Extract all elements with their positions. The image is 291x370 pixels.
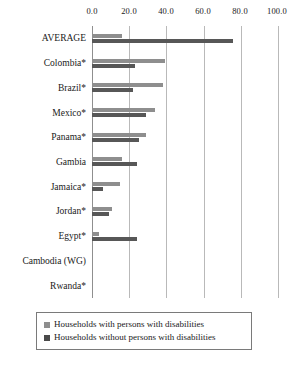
category-label: Cambodia (WG) xyxy=(22,256,86,266)
category-label: Egypt* xyxy=(59,231,86,241)
bar-group xyxy=(92,224,278,249)
legend-label: Households with persons with disabilitie… xyxy=(54,318,204,331)
bar-without-disabilities xyxy=(92,138,139,142)
bar-group xyxy=(92,273,278,298)
bar-rows xyxy=(92,26,278,298)
chart-legend: Households with persons with disabilitie… xyxy=(36,312,252,350)
bar-without-disabilities xyxy=(92,64,135,68)
y-axis-category-labels: AVERAGEColombia*Brazil*Mexico*Panama*Gam… xyxy=(0,26,90,298)
bar-group xyxy=(92,174,278,199)
bar-with-disabilities xyxy=(92,232,99,236)
legend-swatch-icon xyxy=(44,322,50,328)
bar-with-disabilities xyxy=(92,133,146,137)
bar-group xyxy=(92,26,278,51)
legend-item: Households without persons with disabili… xyxy=(44,331,245,344)
bar-with-disabilities xyxy=(92,207,112,211)
bar-group xyxy=(92,199,278,224)
bar-without-disabilities xyxy=(92,187,103,191)
category-label: Panama* xyxy=(51,132,86,142)
bar-with-disabilities xyxy=(92,83,163,87)
x-tick-0: 0.0 xyxy=(75,6,109,16)
bar-with-disabilities xyxy=(92,59,165,63)
category-label: Mexico* xyxy=(52,108,86,118)
category-label: Colombia* xyxy=(44,58,86,68)
bar-without-disabilities xyxy=(92,88,133,92)
plot-area xyxy=(92,26,278,298)
x-tick-5: 100.0 xyxy=(260,6,291,16)
bar-group xyxy=(92,150,278,175)
bar-without-disabilities xyxy=(92,39,233,43)
bar-without-disabilities xyxy=(92,113,146,117)
category-label: Gambia xyxy=(56,157,86,167)
bar-without-disabilities xyxy=(92,162,137,166)
category-label: Rwanda* xyxy=(50,281,86,291)
bar-group xyxy=(92,51,278,76)
x-tick-3: 60.0 xyxy=(186,6,220,16)
category-label: Jordan* xyxy=(56,206,86,216)
bar-group xyxy=(92,100,278,125)
bar-group xyxy=(92,125,278,150)
x-tick-4: 80.0 xyxy=(223,6,257,16)
legend-item: Households with persons with disabilitie… xyxy=(44,318,245,331)
x-axis-tick-labels: 0.0 20.0 40.0 60.0 80.0 100.0 xyxy=(0,6,291,24)
category-label: Jamaica* xyxy=(51,182,86,192)
bar-with-disabilities xyxy=(92,108,155,112)
bar-group xyxy=(92,75,278,100)
bar-group xyxy=(92,249,278,274)
gridline-100-0 xyxy=(278,26,279,298)
legend-label: Households without persons with disabili… xyxy=(54,331,216,344)
category-label: Brazil* xyxy=(58,83,86,93)
legend-swatch-icon xyxy=(44,335,50,341)
bar-with-disabilities xyxy=(92,34,122,38)
x-tick-1: 20.0 xyxy=(112,6,146,16)
bar-with-disabilities xyxy=(92,182,120,186)
bar-with-disabilities xyxy=(92,157,122,161)
category-label: AVERAGE xyxy=(42,33,86,43)
bar-chart: 0.0 20.0 40.0 60.0 80.0 100.0 AVERAGECol… xyxy=(0,0,291,370)
bar-without-disabilities xyxy=(92,237,137,241)
x-tick-2: 40.0 xyxy=(149,6,183,16)
bar-without-disabilities xyxy=(92,212,109,216)
